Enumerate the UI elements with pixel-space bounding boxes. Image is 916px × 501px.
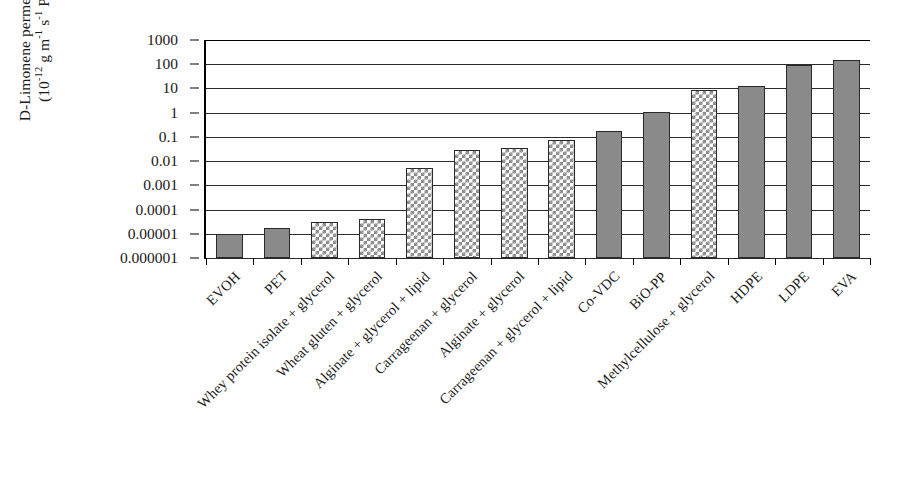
x-axis-tick-mark xyxy=(206,258,207,265)
x-axis-tick-mark xyxy=(633,258,634,265)
x-axis-category-label: Alginate + glycerol xyxy=(435,268,528,361)
x-axis-category-labels: EVOHPETWhey protein isolate + glycerolWh… xyxy=(0,0,916,240)
x-axis-tick-mark xyxy=(538,258,539,265)
x-axis-category-label: PET xyxy=(261,268,291,298)
x-axis-tick-mark xyxy=(396,258,397,265)
x-axis-category-label: EVA xyxy=(828,268,860,300)
x-axis-tick-mark xyxy=(585,258,586,265)
chart-figure: D-Limonene permeability (10-12 g m-1 s-1… xyxy=(0,0,916,501)
x-axis-tick-mark xyxy=(348,258,349,265)
x-axis-tick-mark xyxy=(870,258,871,265)
x-axis-category-label: EVOH xyxy=(203,268,244,309)
x-axis-tick-mark xyxy=(823,258,824,265)
x-axis-category-label: BiO-PP xyxy=(626,268,670,312)
x-axis-tick-mark xyxy=(253,258,254,265)
x-axis-category-label: LDPE xyxy=(775,268,813,306)
x-axis-tick-mark xyxy=(775,258,776,265)
x-axis-category-label: Co-VDC xyxy=(574,268,623,317)
x-axis-tick-mark xyxy=(443,258,444,265)
x-axis-category-label: HDPE xyxy=(727,268,766,307)
x-axis-tick-mark xyxy=(680,258,681,265)
x-axis-tick-mark xyxy=(728,258,729,265)
y-axis-tick-mark xyxy=(190,258,199,259)
y-axis-tick-label: 0.000001 xyxy=(0,249,178,267)
x-axis-tick-mark xyxy=(491,258,492,265)
x-axis-tick-mark xyxy=(301,258,302,265)
